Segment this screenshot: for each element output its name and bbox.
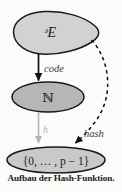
residues-label: {0, … , p − 1} [23, 155, 89, 168]
edge-h: h [39, 112, 49, 143]
figure-caption: Aufbau der Hash-Funktion. [0, 173, 122, 183]
edge-code: code [39, 53, 65, 81]
domain-label: ᵊE [44, 25, 57, 40]
node-naturals: ℕ [12, 82, 84, 112]
figure-container: ᵊE ℕ {0, … , p − 1} code h hash Aufbau d… [0, 0, 122, 192]
node-residues: {0, … , p − 1} [7, 147, 105, 173]
code-edge-label: code [44, 63, 64, 74]
hash-function-diagram: ᵊE ℕ {0, … , p − 1} code h hash [0, 0, 122, 192]
h-edge-label: h [43, 124, 48, 135]
hash-edge-label: hash [84, 128, 104, 139]
node-domain: ᵊE [13, 11, 98, 54]
naturals-label: ℕ [42, 91, 54, 105]
